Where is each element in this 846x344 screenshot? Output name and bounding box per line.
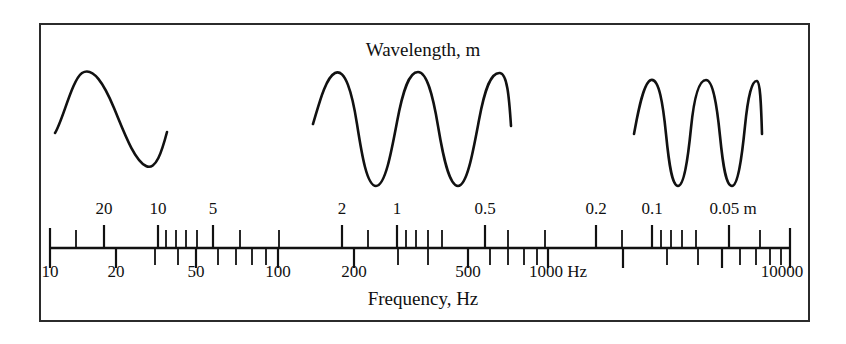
wavelength-tick-label: 2 <box>338 200 347 217</box>
frequency-tick-label: 10000 <box>761 263 804 280</box>
wavelength-tick-label: 0.1 <box>641 200 662 217</box>
wavelength-tick-label: 20 <box>96 200 113 217</box>
frequency-tick-label: 100 <box>265 263 291 280</box>
wavelength-tick-label: 5 <box>209 200 218 217</box>
frequency-tick-label: 500 <box>455 263 481 280</box>
frequency-tick-label: 20 <box>108 263 125 280</box>
frequency-tick-label: 50 <box>188 263 205 280</box>
wavelength-tick-label: 0.2 <box>585 200 606 217</box>
wavelength-tick-label: 0.5 <box>474 200 495 217</box>
wavelength-tick-label: 1 <box>393 200 402 217</box>
frequency-tick-label: 200 <box>341 263 367 280</box>
figure-border <box>39 23 810 322</box>
frequency-tick-label: 10 <box>42 263 59 280</box>
figure-root: Wavelength, m 20 10 5 2 1 0.5 0.2 0.1 0.… <box>0 0 846 344</box>
frequency-axis-title: Frequency, Hz <box>0 289 846 308</box>
wavelength-tick-label: 10 <box>150 200 167 217</box>
wavelength-axis-title: Wavelength, m <box>0 40 846 59</box>
wavelength-tick-label: 0.05 m <box>709 200 756 217</box>
frequency-tick-label: 1000 Hz <box>529 263 587 280</box>
